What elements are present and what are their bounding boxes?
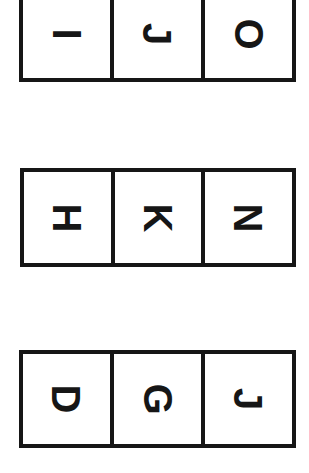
letter-glyph-r3c2: G (138, 383, 178, 414)
letter-glyph-r1c2: J (138, 23, 178, 45)
letter-cell-r2c1[interactable]: H (24, 172, 115, 263)
letter-grid-page: I J O H K N D G J (0, 0, 309, 473)
letter-cell-r2c3[interactable]: N (205, 172, 292, 263)
letter-glyph-r2c1: H (47, 203, 87, 232)
letter-cell-r3c2[interactable]: G (114, 354, 205, 444)
letter-table-row-3: D G J (19, 350, 296, 448)
letter-cell-r3c3[interactable]: J (205, 354, 292, 444)
letter-glyph-r3c1: D (46, 385, 86, 414)
letter-table-row-2: H K N (20, 168, 296, 267)
letter-cell-r1c1[interactable]: I (23, 0, 114, 78)
letter-glyph-r3c3: J (229, 388, 269, 410)
letter-table-row-1: I J O (19, 0, 296, 82)
letter-glyph-r2c2: K (138, 203, 178, 232)
letter-cell-r1c2[interactable]: J (114, 0, 205, 78)
letter-cell-r1c3[interactable]: O (205, 0, 292, 78)
letter-glyph-r2c3: N (229, 203, 269, 232)
letter-cell-r3c1[interactable]: D (23, 354, 114, 444)
letter-glyph-r1c1: I (47, 28, 87, 39)
letter-glyph-r1c3: O (229, 18, 269, 49)
letter-cell-r2c2[interactable]: K (115, 172, 206, 263)
